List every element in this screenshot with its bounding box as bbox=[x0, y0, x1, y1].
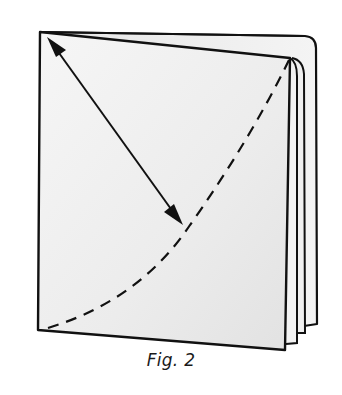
figure-caption: Fig. 2 bbox=[0, 350, 342, 370]
front-page bbox=[38, 32, 290, 350]
folded-paper-diagram bbox=[0, 0, 342, 395]
